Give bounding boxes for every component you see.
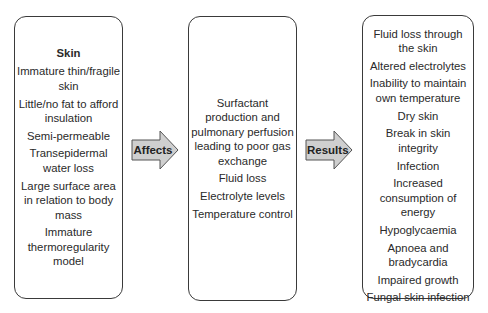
list-item: Break in skin integrity: [365, 126, 471, 155]
list-item: Impaired growth: [378, 273, 459, 288]
list-item: Inability to maintain own temperature: [365, 76, 471, 105]
list-item: Large surface area in relation to body m…: [17, 179, 120, 223]
affected-functions-box: Surfactant production and pulmonary perf…: [188, 16, 297, 301]
affects-arrow: Affects: [131, 130, 179, 170]
list-item: Fluid loss through the skin: [365, 27, 471, 56]
list-item: Surfactant production and pulmonary perf…: [191, 96, 294, 169]
arrow-label: Results: [307, 130, 347, 170]
box-title: Skin: [57, 46, 81, 61]
list-item: Electrolyte levels: [200, 189, 285, 204]
list-item: Little/no fat to afford insulation: [17, 97, 120, 126]
list-item: Infection: [397, 159, 440, 174]
list-item: Fungal skin infection: [367, 290, 470, 305]
results-arrow: Results: [305, 130, 353, 170]
skin-factors-box: Skin Immature thin/fragile skin Little/n…: [14, 16, 123, 299]
arrow-label: Affects: [133, 130, 173, 170]
list-item: Immature thin/fragile skin: [17, 64, 120, 93]
list-item: Apnoea and bradycardia: [365, 241, 471, 270]
list-item: Immature thermoregularity model: [17, 225, 120, 269]
list-item: Hypoglycaemia: [379, 223, 456, 238]
results-box: Fluid loss through the skin Altered elec…: [362, 15, 474, 299]
list-item: Transepidermal water loss: [17, 146, 120, 175]
list-item: Fluid loss: [219, 171, 267, 186]
list-item: Semi-permeable: [27, 129, 110, 144]
list-item: Altered electrolytes: [370, 59, 466, 74]
list-item: Increased consumption of energy: [365, 176, 471, 220]
list-item: Dry skin: [398, 109, 439, 124]
list-item: Temperature control: [192, 207, 292, 222]
